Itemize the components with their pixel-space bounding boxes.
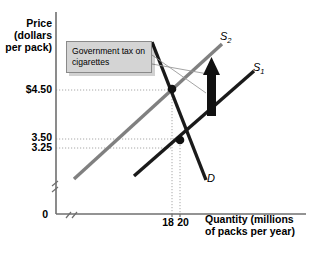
y-axis-break-mark <box>52 181 58 192</box>
curve-label-s1-subscript: 1 <box>260 67 264 76</box>
y-axis-title: Price (dollars per pack) <box>0 18 52 53</box>
shift-arrow-shaft <box>207 72 216 116</box>
origin-label: 0 <box>34 209 48 221</box>
x-tick-label-20: 20 <box>175 217 191 229</box>
curve-label-d-text: D <box>207 172 215 184</box>
y-tick-label-325: 3.25 <box>8 142 52 154</box>
supply-shift-arrow <box>203 57 220 116</box>
x-axis-title: Quantity (millions of packs per year) <box>205 214 310 238</box>
x-axis-break-mark <box>66 212 77 218</box>
callout-leader-lines <box>152 55 208 93</box>
government-tax-callout-box: Government tax on cigarettes <box>66 41 152 73</box>
curve-label-d: D <box>207 172 215 184</box>
curve-label-s1: S1 <box>253 61 265 77</box>
supply-curve-s1 <box>134 71 254 176</box>
government-tax-callout-text: Government tax on cigarettes <box>72 46 150 67</box>
economics-supply-demand-figure: Price (dollars per pack) $4.50 3.50 3.25… <box>0 0 310 259</box>
curve-label-s2: S2 <box>220 30 232 46</box>
y-tick-label-450: $4.50 <box>8 84 52 96</box>
equilibrium-point-before-tax <box>176 136 185 145</box>
curve-label-s2-subscript: 2 <box>227 36 231 45</box>
equilibrium-point-after-tax <box>168 85 177 94</box>
x-tick-label-18: 18 <box>160 217 176 229</box>
demand-curve-d <box>152 42 206 180</box>
callout-leader-upper <box>152 55 206 93</box>
